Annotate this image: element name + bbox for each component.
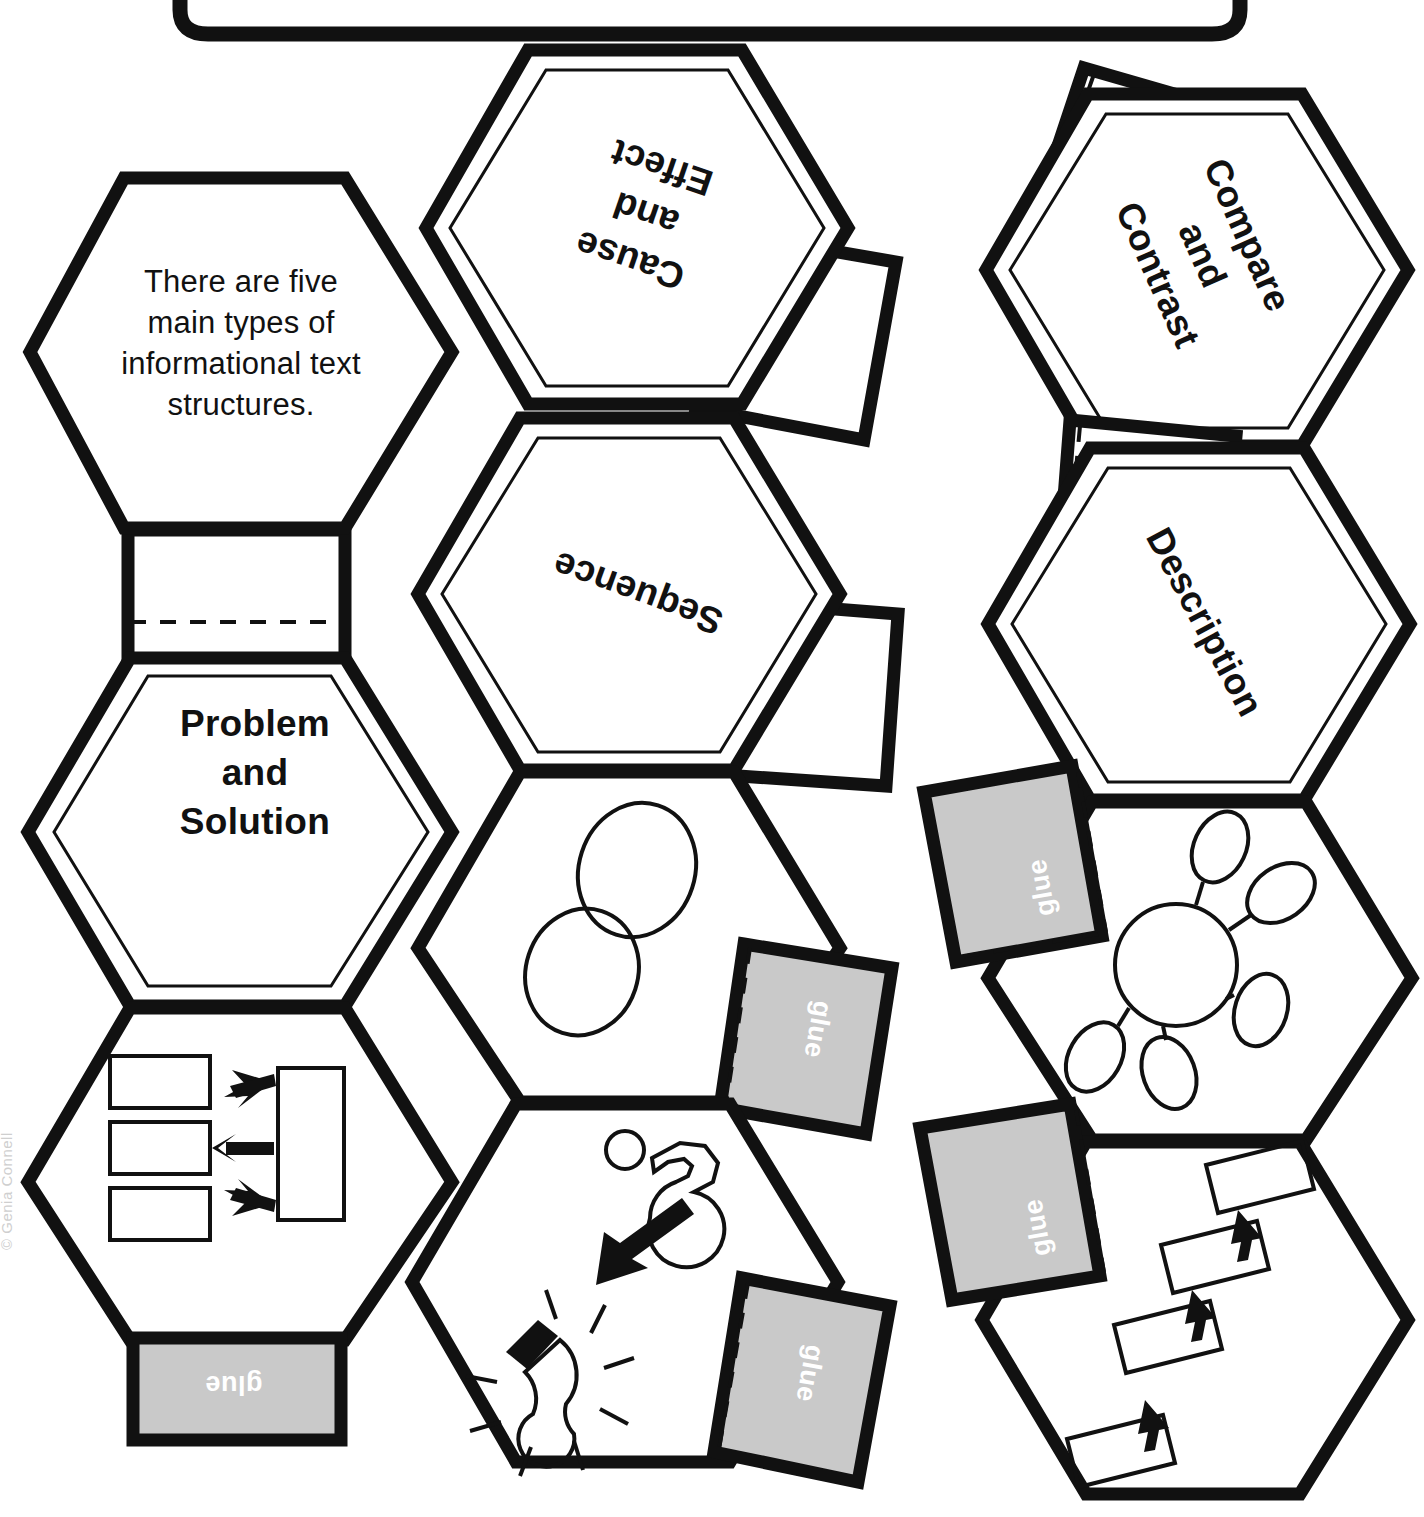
hexagon-description bbox=[988, 448, 1410, 800]
tab-intro-to-problem bbox=[128, 530, 345, 660]
watermark-text: © Genia Connell bbox=[0, 1132, 15, 1250]
foldable-artwork: .thick{fill:#ffffff;stroke:#111111;strok… bbox=[0, 0, 1424, 1517]
top-bar-shape bbox=[180, 0, 1240, 34]
glue-label-problem-solution: glue bbox=[205, 1369, 263, 1400]
hexagon-compare-and-contrast bbox=[986, 94, 1408, 446]
glue-tab-sequence-flow bbox=[920, 1104, 1104, 1300]
glue-tab-web bbox=[924, 766, 1106, 962]
hexagon-intro bbox=[30, 178, 452, 528]
worksheet-page: .thick{fill:#ffffff;stroke:#111111;strok… bbox=[0, 0, 1424, 1517]
hexagon-problem-and-solution bbox=[28, 658, 452, 1006]
hexagon-problem-solution-diagram bbox=[28, 1008, 452, 1340]
